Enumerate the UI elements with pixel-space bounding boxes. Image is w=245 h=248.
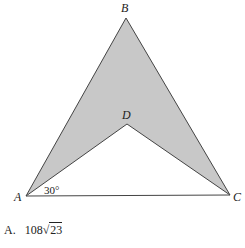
choice-coefficient: 108	[25, 223, 43, 237]
choice-radicand: 23	[49, 222, 62, 237]
angle-label-a: 30°	[44, 185, 59, 196]
shaded-region-abcd	[26, 18, 230, 196]
vertex-label-b: B	[121, 2, 128, 14]
vertex-label-d: D	[122, 109, 131, 121]
answer-choice-a: A.108√23	[4, 223, 62, 237]
choice-letter: A.	[4, 223, 16, 237]
geometry-figure: B D A C 30°	[0, 0, 245, 215]
vertex-label-c: C	[233, 191, 241, 203]
vertex-label-a: A	[14, 191, 21, 203]
